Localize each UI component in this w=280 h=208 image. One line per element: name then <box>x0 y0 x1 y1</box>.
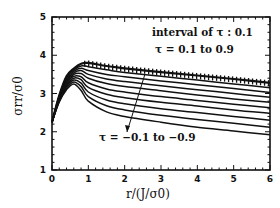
y-tick-label: 5 <box>40 12 46 22</box>
x-tick-label: 3 <box>158 174 164 184</box>
x-tick-label: 0 <box>49 174 55 184</box>
y-tick-label: 3 <box>40 89 46 99</box>
annotation-positive-tau: τ = 0.1 to 0.9 <box>155 43 234 55</box>
x-tick-label: 5 <box>231 174 237 184</box>
y-tick-label: 4 <box>40 50 46 60</box>
annotation-interval: interval of τ : 0.1 <box>152 26 253 38</box>
y-tick-label: 2 <box>40 127 46 137</box>
x-axis-label: r/(J/σ0) <box>126 187 170 201</box>
x-tick-label: 2 <box>122 174 128 184</box>
x-tick-label: 1 <box>85 174 91 184</box>
x-tick-label: 6 <box>267 174 273 184</box>
annotation-negative-tau: τ = −0.1 to −0.9 <box>99 131 195 143</box>
chart: 012345612345 interval of τ : 0.1 τ = 0.1… <box>0 0 280 208</box>
y-axis-label: σrr/σ0 <box>11 76 25 116</box>
y-axis-label-group: σrr/σ0 <box>11 76 25 116</box>
x-tick-label: 4 <box>194 174 200 184</box>
y-tick-label: 1 <box>40 165 46 175</box>
